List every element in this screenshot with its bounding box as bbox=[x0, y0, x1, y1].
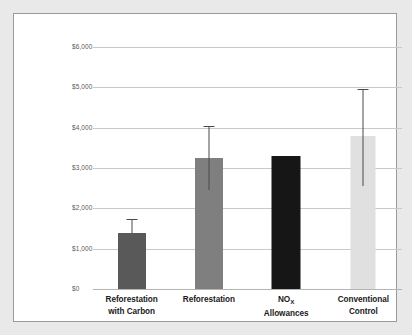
y-tick-label: $2,000 bbox=[72, 204, 92, 211]
y-tick-label: $6,000 bbox=[72, 43, 92, 50]
bar bbox=[118, 233, 146, 289]
x-label-line1: Reforestation bbox=[183, 295, 235, 304]
bar-group bbox=[170, 47, 247, 289]
x-axis-category-label: Reforestation bbox=[170, 294, 247, 306]
x-label-line1: Reforestation bbox=[106, 295, 158, 304]
figure-root: Cost / Ton NOx $0$1,000$2,000$3,000$4,00… bbox=[0, 0, 412, 335]
x-axis-category-label: Reforestationwith Carbon bbox=[93, 294, 170, 317]
x-axis-label-group: Reforestationwith CarbonReforestationNOX… bbox=[93, 294, 402, 334]
x-axis-category-label: NOXAllowances bbox=[248, 294, 325, 319]
y-tick-label: $3,000 bbox=[72, 164, 92, 171]
plot-area bbox=[93, 47, 402, 289]
y-tick-label: $5,000 bbox=[72, 83, 92, 90]
chart-card: Cost / Ton NOx $0$1,000$2,000$3,000$4,00… bbox=[13, 13, 397, 322]
bar-group bbox=[325, 47, 402, 289]
error-bar-cap-upper bbox=[126, 219, 137, 220]
error-bar-cap-upper bbox=[358, 89, 369, 90]
y-tick-label: $0 bbox=[72, 285, 79, 292]
y-tick-label: $1,000 bbox=[72, 245, 92, 252]
bar bbox=[272, 156, 301, 289]
error-bar-line bbox=[131, 219, 132, 233]
x-axis-category-label: ConventionalControl bbox=[325, 294, 402, 317]
error-bar-line bbox=[208, 126, 209, 191]
x-label-line2: Allowances bbox=[264, 309, 309, 318]
x-label-line2: with Carbon bbox=[108, 307, 155, 316]
x-label-line1: NO bbox=[278, 295, 290, 304]
y-tick-label: $4,000 bbox=[72, 124, 92, 131]
error-bar-line bbox=[363, 89, 364, 186]
x-label-subscript: X bbox=[290, 298, 294, 305]
x-label-line1: Conventional bbox=[338, 295, 389, 304]
error-bar-cap-upper bbox=[203, 126, 214, 127]
bar-group bbox=[93, 47, 170, 289]
axis-baseline bbox=[93, 289, 402, 290]
bar-group bbox=[248, 47, 325, 289]
x-label-line2: Control bbox=[349, 307, 378, 316]
